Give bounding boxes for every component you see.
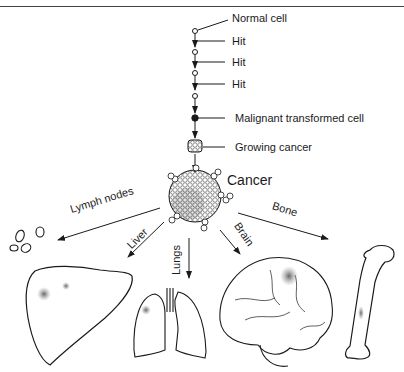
lungs-icon: [134, 288, 206, 358]
progression-chain: [188, 20, 228, 172]
lymph-nodes-icon: [10, 227, 44, 254]
label-hit-1: Hit: [232, 36, 245, 47]
label-normal-cell: Normal cell: [232, 13, 287, 24]
label-growing-cancer: Growing cancer: [235, 142, 312, 153]
label-lungs: Lungs: [171, 245, 182, 275]
diagram-canvas: [0, 0, 404, 372]
cell-icon: [193, 71, 198, 76]
label-hit-2: Hit: [232, 57, 245, 68]
label-hit-3: Hit: [232, 79, 245, 90]
cell-icon: [193, 94, 198, 99]
label-cancer: Cancer: [227, 173, 272, 187]
liver-icon: [26, 266, 132, 365]
normal-cell-icon: [193, 29, 198, 34]
label-malignant-cell: Malignant transformed cell: [235, 113, 364, 124]
cell-icon: [193, 50, 198, 55]
cancer-mass-icon: [168, 165, 233, 231]
malignant-cell-icon: [192, 115, 198, 121]
brain-icon: [220, 258, 333, 367]
bone-icon: [346, 246, 394, 360]
growing-cancer-icon: [188, 140, 202, 152]
